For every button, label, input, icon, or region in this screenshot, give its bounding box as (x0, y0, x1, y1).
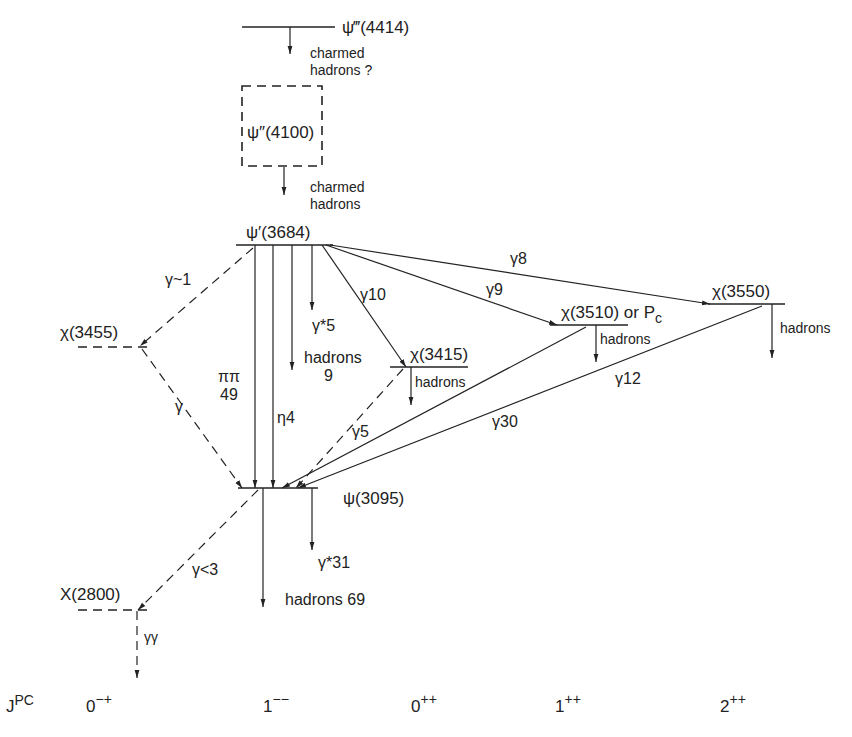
rate-x2800-decay: γγ (144, 629, 158, 645)
note-psi4414-2: hadrons ? (310, 62, 372, 78)
label-x2800: X(2800) (60, 585, 120, 604)
rate-psi3095-gammastar: γ*31 (318, 554, 350, 571)
charmonium-diagram: ψ‴(4414) charmed hadrons ? ψ″(4100) char… (0, 0, 852, 737)
rate-psi3684-to-chi3415: γ10 (360, 286, 386, 303)
label-psi4414: ψ‴(4414) (342, 18, 409, 37)
rate-pipi-2: 49 (220, 386, 238, 403)
note-psi4100-2: hadrons (310, 196, 361, 212)
jpc-column-4: 2++ (720, 691, 746, 716)
rate-psi3684-to-chi3550: γ8 (510, 250, 527, 267)
rate-psi3684-hadrons-2: 9 (324, 367, 333, 384)
label-chi3510: χ(3510) or Pc (561, 303, 662, 326)
rate-psi3684-gammastar: γ*5 (312, 317, 335, 334)
decay-chi3415: hadrons (415, 374, 466, 390)
jpc-column-0: 0−+ (86, 691, 112, 716)
arrow-psi3684-to-chi3455 (140, 248, 253, 346)
jpc-column-1: 1−− (263, 691, 289, 716)
label-chi3455: χ(3455) (60, 323, 118, 342)
note-psi4414-1: charmed (310, 45, 364, 61)
label-psi3684: ψ′(3684) (246, 223, 310, 242)
rate-psi3684-to-chi3455: γ~1 (165, 271, 191, 288)
rate-chi3510-to-psi3095: γ30 (492, 413, 518, 430)
rate-chi3415-to-psi3095: γ5 (352, 423, 369, 440)
arrow-chi3550-to-psi3095 (298, 306, 762, 488)
decay-chi3550: hadrons (780, 320, 831, 336)
rate-psi3095-to-x2800: γ<3 (192, 561, 218, 578)
jpc-column-2: 0++ (411, 691, 437, 716)
label-chi3415: χ(3415) (410, 345, 468, 364)
rate-chi3550-to-psi3095: γ12 (615, 370, 641, 387)
jpc-axis-label: JPC (6, 692, 34, 716)
rate-psi3095-hadrons: hadrons 69 (285, 591, 365, 608)
note-psi4100-1: charmed (310, 179, 364, 195)
decay-chi3510: hadrons (600, 331, 651, 347)
arrow-chi3415-to-psi3095 (296, 369, 403, 488)
rate-chi3455-to-psi3095: γ (175, 398, 183, 415)
rate-pipi-1: ππ (218, 368, 240, 385)
label-chi3550: χ(3550) (712, 282, 770, 301)
rate-psi3684-to-chi3510: γ9 (486, 281, 503, 298)
rate-psi3684-hadrons-1: hadrons (304, 349, 362, 366)
label-psi4100: ψ″(4100) (247, 123, 314, 142)
label-psi3095: ψ(3095) (343, 489, 404, 508)
arrow-psi3095-to-x2800 (138, 490, 258, 610)
jpc-column-3: 1++ (555, 691, 581, 716)
rate-eta: η4 (277, 409, 295, 426)
